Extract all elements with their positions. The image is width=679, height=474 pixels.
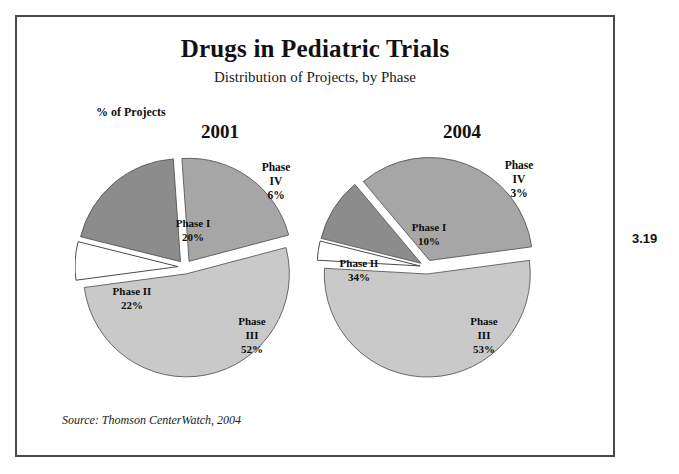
pie-panel-2004: 2004 Phase I10%Phase II34%PhaseIII53%Pha… [317, 121, 607, 391]
chart-title: Drugs in Pediatric Trials [17, 35, 613, 63]
figure-number: 3.19 [632, 231, 657, 246]
chart-subtitle: Distribution of Projects, by Phase [17, 69, 613, 86]
source-note: Source: Thomson CenterWatch, 2004 [62, 413, 241, 428]
axis-note-percent-of-projects: % of Projects [96, 105, 166, 120]
figure-frame: Drugs in Pediatric Trials Distribution o… [15, 15, 615, 457]
pie-chart-2004: Phase I10%Phase II34%PhaseIII53%PhaseIV3… [317, 147, 607, 387]
pie-slice-label-phase-iv: PhaseIV3% [505, 159, 534, 199]
pie-slice-phase-ii [182, 158, 289, 261]
pie-year-label-2004: 2004 [317, 121, 607, 143]
